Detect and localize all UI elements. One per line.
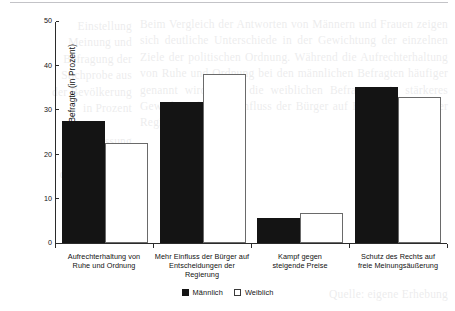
y-axis-tick-label: 30 [44,106,56,113]
x-axis-category-label-line: Schutz des Rechts auf [350,252,446,261]
x-axis-tick-mark [447,244,448,248]
legend-label: Männlich [193,288,223,297]
bar-male[interactable] [160,102,203,243]
bar-group [257,22,343,243]
x-axis-category-label-line: steigende Preise [252,261,348,270]
x-axis-category-label: Kampf gegensteigende Preise [252,252,348,280]
x-axis-category-label: Aufrechterhaltung vonRuhe und Ordnung [56,252,152,280]
plot-area [56,22,447,243]
x-axis-category-label-line: freie Meinungsäußerung [350,261,446,270]
bar-group [62,22,148,243]
x-axis-category-label: Schutz des Rechts auffreie Meinungsäußer… [350,252,446,280]
x-axis-tick-mark [349,244,350,248]
bar-female[interactable] [300,213,343,243]
x-axis-labels: Aufrechterhaltung vonRuhe und OrdnungMeh… [55,252,447,280]
x-axis-tick-mark [55,244,56,248]
bar-chart-figure: Anteil der Befragte (in Prozent) 0102030… [0,0,455,311]
y-axis-tick-label: 40 [44,62,56,69]
bar-group [160,22,246,243]
x-axis-category-label-line: Kampf gegen [252,252,348,261]
x-axis-category-label: Mehr Einfluss der Bürger aufEntscheidung… [154,252,250,280]
x-axis-ticks [55,244,447,249]
bar-male[interactable] [257,218,300,243]
legend-swatch-male [182,289,189,296]
x-axis-category-label-line: Mehr Einfluss der Bürger auf [154,252,250,261]
chart-legend: MännlichWeiblich [0,288,455,297]
bar-male[interactable] [355,87,398,243]
plot-frame: Anteil der Befragte (in Prozent) 0102030… [55,22,447,244]
bar-female[interactable] [105,143,148,243]
bar-male[interactable] [62,121,105,243]
x-axis-tick-mark [153,244,154,248]
x-axis-category-label-line: Ruhe und Ordnung [56,261,152,270]
legend-label: Weiblich [245,288,274,297]
legend-swatch-female [234,289,241,296]
x-axis-category-label-line: Entscheidungen der Regierung [154,261,250,279]
legend-item-female[interactable]: Weiblich [234,288,274,297]
bar-female[interactable] [398,97,441,243]
y-axis-tick-label: 10 [44,195,56,202]
bar-group [355,22,441,243]
bar-female[interactable] [203,74,246,243]
x-axis-category-label-line: Aufrechterhaltung von [56,252,152,261]
y-axis-tick-label: 50 [44,17,56,24]
x-axis-tick-mark [251,244,252,248]
legend-item-male[interactable]: Männlich [182,288,223,297]
y-axis-tick-label: 20 [44,151,56,158]
